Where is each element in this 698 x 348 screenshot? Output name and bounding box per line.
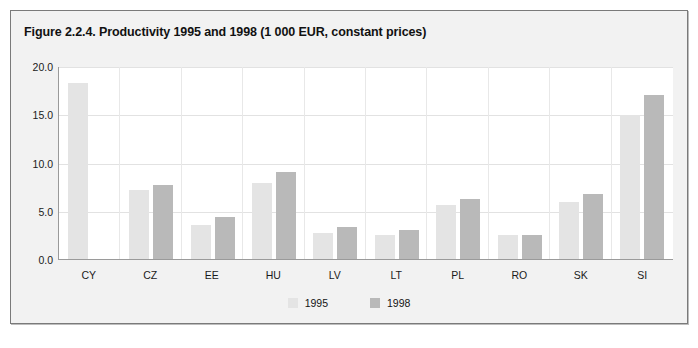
bar-group (243, 67, 304, 259)
bar-EE-1995 (191, 225, 211, 259)
chart-legend: 19951998 (11, 297, 687, 309)
bar-RO-1995 (498, 235, 518, 259)
legend-label: 1998 (387, 297, 410, 309)
bar-series-layer (59, 67, 673, 259)
bar-group (427, 67, 488, 259)
bar-group (489, 67, 550, 259)
y-tick-label: 20.0 (11, 61, 53, 73)
x-tick-label-HU: HU (243, 264, 305, 286)
x-tick-label-RO: RO (489, 264, 551, 286)
legend-item-1998[interactable]: 1998 (370, 297, 410, 309)
figure-panel: Figure 2.2.4. Productivity 1995 and 1998… (10, 10, 688, 324)
bar-HU-1998 (276, 172, 296, 259)
x-tick-label-PL: PL (427, 264, 489, 286)
bar-CZ-1998 (153, 185, 173, 259)
x-tick-label-LV: LV (304, 264, 366, 286)
x-tick-label-LT: LT (366, 264, 428, 286)
x-tick-label-CY: CY (58, 264, 120, 286)
x-axis: CYCZEEHULVLTPLROSKSI (58, 264, 673, 286)
bar-CY-1995 (68, 83, 88, 259)
bar-group (550, 67, 611, 259)
bar-LV-1998 (337, 227, 357, 259)
legend-item-1995[interactable]: 1995 (288, 297, 328, 309)
x-tick-label-SI: SI (612, 264, 674, 286)
bar-SK-1995 (559, 202, 579, 259)
bar-HU-1995 (252, 183, 272, 259)
bar-EE-1998 (215, 217, 235, 259)
bar-group (182, 67, 243, 259)
legend-swatch-icon (288, 298, 298, 308)
y-tick-label: 0.0 (11, 254, 53, 266)
bar-PL-1995 (436, 205, 456, 259)
plot-area (58, 67, 673, 260)
bar-LV-1995 (313, 233, 333, 259)
bar-SI-1998 (644, 95, 664, 259)
bar-LT-1995 (375, 235, 395, 259)
x-tick-label-EE: EE (181, 264, 243, 286)
bar-LT-1998 (399, 230, 419, 259)
legend-label: 1995 (305, 297, 328, 309)
y-axis: 0.05.010.015.020.0 (11, 67, 53, 260)
bar-SK-1998 (583, 194, 603, 259)
bar-group (120, 67, 181, 259)
x-tick-label-SK: SK (550, 264, 612, 286)
bar-group (59, 67, 120, 259)
x-tick-label-CZ: CZ (120, 264, 182, 286)
bar-SI-1995 (620, 115, 640, 259)
bar-PL-1998 (460, 199, 480, 259)
y-tick-label: 15.0 (11, 109, 53, 121)
bar-CZ-1995 (129, 190, 149, 259)
bar-group (612, 67, 673, 259)
legend-swatch-icon (370, 298, 380, 308)
bar-group (305, 67, 366, 259)
figure-title: Figure 2.2.4. Productivity 1995 and 1998… (24, 25, 426, 39)
y-tick-label: 10.0 (11, 158, 53, 170)
bar-group (366, 67, 427, 259)
y-tick-label: 5.0 (11, 206, 53, 218)
bar-RO-1998 (522, 235, 542, 259)
